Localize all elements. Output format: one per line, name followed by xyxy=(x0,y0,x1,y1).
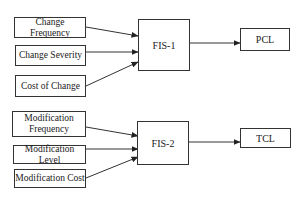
tcl-label: TCL xyxy=(256,133,275,144)
input-label: Modification Cost xyxy=(15,173,84,184)
input-cost-of-change: Cost of Change xyxy=(15,75,86,97)
fis-1-label: FIS-1 xyxy=(153,40,176,51)
input-modification-level: Modification Level xyxy=(13,145,86,164)
fis-1-node: FIS-1 xyxy=(138,19,190,71)
arrow-mod-frequency-to-fis2 xyxy=(86,127,138,136)
tcl-output: TCL xyxy=(240,128,291,148)
input-change-frequency: Change Frequency xyxy=(14,17,86,38)
input-label: Cost of Change xyxy=(21,81,80,92)
fis-2-label: FIS-2 xyxy=(152,138,175,149)
input-label: Change Severity xyxy=(19,50,82,61)
input-change-severity: Change Severity xyxy=(15,45,86,66)
arrow-mod-cost-to-fis2 xyxy=(86,157,138,178)
input-label: Change Frequency xyxy=(15,17,85,39)
pcl-label: PCL xyxy=(256,34,274,45)
input-modification-cost: Modification Cost xyxy=(14,169,86,188)
input-label: Modification Frequency xyxy=(21,113,77,135)
pcl-output: PCL xyxy=(240,28,290,51)
arrow-cost-of-change-to-fis1 xyxy=(86,62,138,86)
input-label: Modification Level xyxy=(14,144,85,166)
arrow-change-frequency-to-fis1 xyxy=(86,27,138,36)
fis-2-node: FIS-2 xyxy=(137,121,189,165)
input-modification-frequency: Modification Frequency xyxy=(12,111,86,137)
